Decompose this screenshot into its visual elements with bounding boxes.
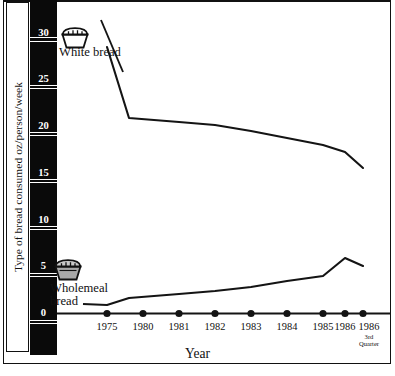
x-axis-point-marker: [319, 310, 326, 317]
x-axis-point-marker: [283, 310, 290, 317]
x-tick-label-1986-q3-year: 1986: [359, 321, 380, 332]
chart-screenshot: Type of bread consumed oz/person/week 30…: [0, 0, 395, 376]
x-axis-point-marker: [103, 310, 110, 317]
x-tick-label-1984: 1984: [277, 322, 298, 333]
wholemeal-bread-annotation-line1: Wholemeal: [50, 282, 108, 295]
wholemeal-bread-line: [107, 258, 363, 305]
y-tick-label-30: 30: [30, 28, 57, 39]
white-bread-line: [107, 47, 363, 168]
x-axis-point-marker: [211, 310, 218, 317]
y-tick-label-0: 0: [30, 308, 57, 319]
white-bread-annotation: White bread: [59, 46, 121, 59]
x-tick-label-1986-3rd-quarter: 1986 3rd Quarter: [359, 322, 380, 348]
x-axis-point-marker: [175, 310, 182, 317]
x-axis-point-marker: [139, 310, 146, 317]
y-tick-label-10: 10: [30, 215, 57, 226]
x-tick-label-1983: 1983: [241, 322, 262, 333]
y-tick-label-20: 20: [30, 121, 57, 132]
wholemeal-bread-annotation: Wholemeal bread: [50, 282, 108, 308]
x-axis-title: Year: [0, 346, 395, 362]
white-bread-annotation-text: White bread: [59, 45, 121, 59]
x-axis-point-marker: [247, 310, 254, 317]
x-tick-label-1980: 1980: [133, 322, 154, 333]
y-tick-label-25: 25: [30, 74, 57, 85]
x-tick-label-1982: 1982: [205, 322, 226, 333]
y-tick-label-15: 15: [30, 168, 57, 179]
x-tick-label-1975: 1975: [97, 322, 118, 333]
y-axis-caption-box: Type of bread consumed oz/person/week: [6, 2, 29, 352]
x-tick-label-1986-q3-sub1: 3rd: [359, 333, 380, 340]
x-tick-label-1981: 1981: [169, 322, 190, 333]
x-axis-point-marker: [359, 310, 366, 317]
wholemeal-bread-annotation-line2: bread: [50, 295, 108, 308]
x-tick-label-1985: 1985: [313, 322, 334, 333]
x-tick-label-1986: 1986: [335, 322, 356, 333]
y-axis-caption: Type of bread consumed oz/person/week: [12, 82, 24, 272]
x-axis-point-marker: [341, 310, 348, 317]
